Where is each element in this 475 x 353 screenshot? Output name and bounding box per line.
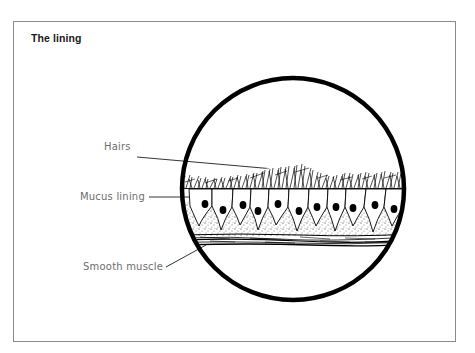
magnified-lining-illustration [0, 0, 475, 353]
tissue-section [180, 164, 410, 246]
cilia-layer [180, 164, 410, 188]
hairs-leader-line [137, 157, 274, 169]
